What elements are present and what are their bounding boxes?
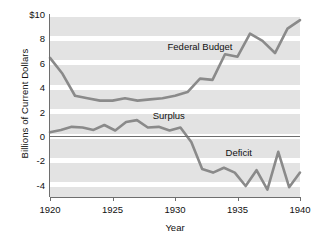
series-line-2 bbox=[50, 120, 300, 190]
y-tick-label: 0 bbox=[40, 131, 45, 142]
x-tick-label: 1925 bbox=[102, 204, 123, 215]
y-tick-label: 2 bbox=[40, 106, 45, 117]
x-tick-mark bbox=[300, 197, 301, 201]
y-tick-label: -4 bbox=[37, 179, 45, 190]
y-tick-label: $10 bbox=[29, 9, 45, 20]
x-axis-spine bbox=[50, 197, 300, 198]
y-axis-title: Billions of Current Dollars bbox=[19, 24, 30, 184]
x-tick-label: 1920 bbox=[39, 204, 60, 215]
x-tick-label: 1940 bbox=[289, 204, 310, 215]
y-axis-spine bbox=[49, 14, 50, 197]
y-tick-label: 8 bbox=[40, 33, 45, 44]
chart-figure: Billions of Current Dollars $1086420-2-4… bbox=[0, 0, 318, 242]
zero-axis-line bbox=[50, 136, 300, 137]
y-tick-label: 4 bbox=[40, 82, 45, 93]
x-tick-label: 1935 bbox=[227, 204, 248, 215]
annotation-deficit: Deficit bbox=[226, 147, 252, 158]
annotation-surplus: Surplus bbox=[153, 109, 185, 120]
x-tick-label: 1930 bbox=[164, 204, 185, 215]
annotation-federal-budget: Federal Budget bbox=[168, 40, 233, 51]
y-tick-label: -2 bbox=[37, 155, 45, 166]
x-axis-title: Year bbox=[50, 222, 300, 233]
y-tick-label: 6 bbox=[40, 57, 45, 68]
series-line-1 bbox=[50, 20, 300, 101]
plot-area: $1086420-2-419201925193019351940 Federal… bbox=[50, 14, 300, 197]
